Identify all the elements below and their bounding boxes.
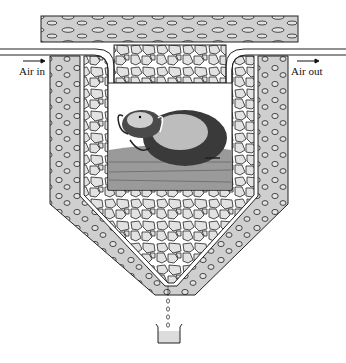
animal-chamber [108, 83, 232, 190]
air-in-arrow-icon [23, 59, 45, 63]
top-cover-slab [41, 16, 298, 42]
air-out-arrow-icon [297, 59, 319, 63]
apparatus-diagram [0, 0, 346, 363]
air-out-label: Air out [291, 65, 322, 77]
upper-rock-block [114, 45, 226, 83]
air-in-label: Air in [19, 65, 45, 77]
